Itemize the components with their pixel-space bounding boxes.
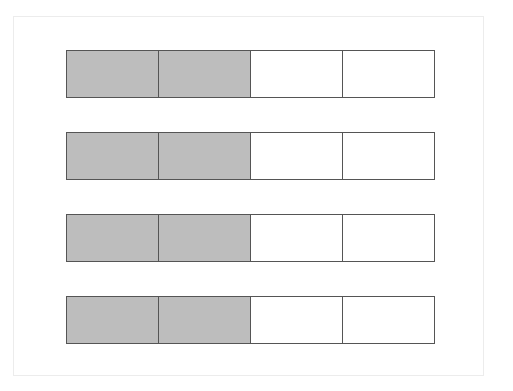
empty-part bbox=[251, 215, 343, 261]
shaded-part bbox=[159, 215, 251, 261]
empty-part bbox=[251, 51, 343, 97]
shaded-part bbox=[159, 297, 251, 343]
empty-part bbox=[343, 51, 434, 97]
shaded-part bbox=[67, 297, 159, 343]
shaded-part bbox=[159, 51, 251, 97]
fraction-bar bbox=[66, 50, 435, 98]
fraction-bar bbox=[66, 214, 435, 262]
fraction-bar bbox=[66, 132, 435, 180]
shaded-part bbox=[67, 215, 159, 261]
shaded-part bbox=[159, 133, 251, 179]
fraction-bar bbox=[66, 296, 435, 344]
empty-part bbox=[343, 133, 434, 179]
empty-part bbox=[251, 133, 343, 179]
empty-part bbox=[343, 215, 434, 261]
shaded-part bbox=[67, 133, 159, 179]
empty-part bbox=[251, 297, 343, 343]
empty-part bbox=[343, 297, 434, 343]
shaded-part bbox=[67, 51, 159, 97]
